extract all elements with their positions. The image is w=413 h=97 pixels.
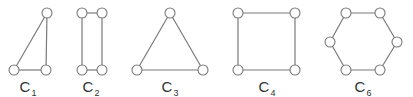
vertex [341,8,351,18]
edge [46,13,47,70]
vertex [233,65,243,75]
graph-c2 [77,8,107,75]
vertex [165,8,175,18]
vertex [341,65,351,75]
graph-label-c2: C2 [83,79,100,97]
graph-label-c3: C3 [162,79,179,97]
vertex [325,37,335,47]
vertex [77,65,87,75]
vertex [290,65,300,75]
vertex [132,65,142,75]
cycle-graphs-diagram [0,0,413,97]
graph-label-c6: C6 [355,79,372,97]
vertex [9,65,19,75]
edge [170,13,203,70]
vertex [375,65,385,75]
vertex [198,65,208,75]
vertex [77,8,87,18]
vertex [290,8,300,18]
graph-c1 [9,8,52,75]
graph-c6 [325,8,402,75]
vertex [97,8,107,18]
graph-label-c4: C4 [259,79,276,97]
vertex [392,37,402,47]
vertex [42,8,52,18]
vertex [41,65,51,75]
vertex [97,65,107,75]
vertex [375,8,385,18]
edge [14,13,47,70]
graph-c3 [132,8,208,75]
edge [137,13,170,70]
graph-c4 [233,8,300,75]
vertex [233,8,243,18]
graph-label-c1: C1 [20,79,37,97]
